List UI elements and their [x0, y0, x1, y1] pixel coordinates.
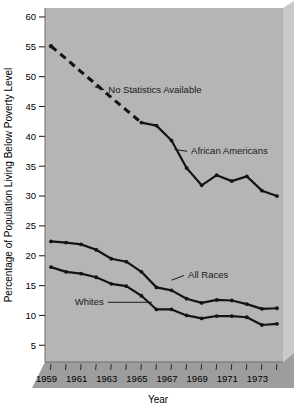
data-point: [200, 183, 204, 187]
data-point: [79, 272, 83, 276]
x-tick: [261, 364, 262, 370]
y-tick-label: 30: [25, 190, 36, 201]
x-tick-label: 1965: [126, 373, 147, 384]
x-tick: [231, 364, 232, 370]
y-tick-label: 50: [25, 71, 36, 82]
data-point: [109, 257, 113, 261]
x-tick: [111, 364, 112, 370]
x-tick: [276, 364, 277, 370]
panel-right-bevel: [283, 1, 294, 362]
x-tick: [216, 364, 217, 370]
data-point: [215, 314, 219, 318]
y-axis-title: Percentage of Population Living Below Po…: [3, 68, 14, 303]
x-tick: [171, 364, 172, 370]
data-point: [155, 285, 159, 289]
x-tick: [81, 364, 82, 370]
x-tick-label: 1969: [187, 373, 208, 384]
data-point: [170, 308, 174, 312]
x-tick-label: 1959: [36, 373, 57, 384]
data-point: [200, 301, 204, 305]
data-point: [64, 270, 68, 274]
y-tick-label: 15: [25, 280, 36, 291]
data-point: [94, 248, 98, 252]
data-point: [260, 307, 264, 311]
x-tick-label: 1971: [217, 373, 238, 384]
data-point: [230, 179, 234, 183]
data-point: [230, 299, 234, 303]
y-tick-label: 5: [31, 340, 36, 351]
data-point: [155, 124, 159, 128]
x-axis-title: Year: [148, 394, 169, 405]
all-races-label: All Races: [188, 269, 228, 280]
y-tick-label: 25: [25, 220, 36, 231]
y-tick-label: 10: [25, 310, 36, 321]
x-tick: [126, 364, 127, 370]
poverty-chart: 5101520253035404550556019591961196319651…: [0, 0, 304, 419]
data-point: [155, 308, 159, 312]
y-tick-label: 45: [25, 101, 36, 112]
data-point: [140, 270, 144, 274]
x-tick: [141, 364, 142, 370]
data-point: [170, 139, 174, 143]
y-tick-label: 35: [25, 161, 36, 172]
data-point: [94, 275, 98, 279]
x-tick-label: 1963: [96, 373, 117, 384]
data-point: [109, 282, 113, 286]
data-point: [170, 288, 174, 292]
data-point: [140, 294, 144, 298]
data-point: [49, 240, 53, 244]
chart-canvas: 5101520253035404550556019591961196319651…: [0, 0, 304, 419]
y-axis: 51015202530354045505560: [25, 11, 45, 350]
data-point: [275, 194, 279, 198]
x-tick: [186, 364, 187, 370]
data-point: [185, 314, 189, 318]
data-point: [185, 297, 189, 301]
whites-label: Whites: [75, 296, 104, 307]
data-point: [230, 314, 234, 318]
data-point: [245, 174, 249, 178]
data-point: [275, 322, 279, 326]
data-point: [275, 306, 279, 310]
y-tick-label: 40: [25, 131, 36, 142]
x-tick: [246, 364, 247, 370]
x-tick: [50, 364, 51, 370]
data-point: [245, 302, 249, 306]
data-point: [140, 121, 144, 125]
y-tick-label: 60: [25, 11, 36, 22]
african-americans-label: African Americans: [191, 145, 268, 156]
data-point: [215, 298, 219, 302]
data-point: [79, 242, 83, 246]
no-statistics-available-label: No Statistics Available: [108, 84, 201, 95]
y-tick-label: 55: [25, 41, 36, 52]
data-point: [64, 241, 68, 245]
data-point: [124, 284, 128, 288]
data-point: [185, 166, 189, 170]
data-point: [124, 260, 128, 264]
x-tick: [156, 364, 157, 370]
data-point: [245, 315, 249, 319]
data-point: [215, 173, 219, 177]
y-tick-label: 20: [25, 250, 36, 261]
x-tick: [65, 364, 66, 370]
data-point: [260, 323, 264, 327]
x-tick-label: 1967: [156, 373, 177, 384]
x-tick: [201, 364, 202, 370]
x-tick-label: 1973: [247, 373, 268, 384]
x-tick-label: 1961: [66, 373, 87, 384]
data-point: [49, 265, 53, 269]
data-point: [200, 317, 204, 321]
data-point: [49, 44, 53, 48]
data-point: [260, 189, 264, 193]
x-tick: [96, 364, 97, 370]
